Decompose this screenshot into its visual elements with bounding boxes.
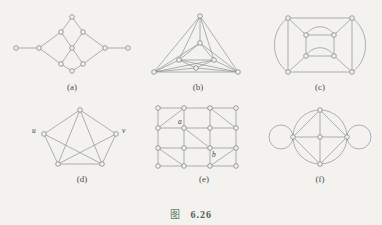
subfigure-c-graph [268, 8, 372, 80]
figure-page: (a) [0, 0, 382, 225]
subfigure-d: u v [28, 102, 136, 172]
subfigure-e-graph: a b [152, 102, 256, 172]
subfigure-b [148, 8, 248, 80]
figure-label-number: 6.26 [191, 209, 213, 220]
figure-label-cjk: 图 [170, 209, 187, 220]
subfigure-f-caption: (f) [300, 174, 340, 184]
subfigure-e-caption: (e) [184, 174, 224, 184]
subfigure-c-caption: (c) [300, 82, 340, 92]
subfigure-d-edges [44, 110, 116, 164]
vertex-label-v: v [122, 126, 126, 135]
figure-label: 图 6.26 [0, 206, 382, 221]
vertex-label-b: b [212, 150, 216, 159]
subfigure-f [268, 102, 372, 172]
subfigure-b-graph [148, 8, 248, 80]
subfigure-e: a b [152, 102, 256, 172]
subfigure-f-graph [268, 102, 372, 172]
subfigure-b-caption: (b) [178, 82, 218, 92]
subfigure-a-caption: (a) [52, 82, 92, 92]
subfigure-c-edges [288, 18, 352, 72]
vertex-label-a: a [178, 117, 182, 126]
subfigure-a [8, 8, 136, 80]
subfigure-e-vertices [156, 106, 239, 169]
subfigure-c-vertices [286, 16, 355, 75]
subfigure-a-graph [8, 8, 136, 80]
subfigure-c [268, 8, 372, 80]
subfigure-d-vertices [42, 108, 119, 167]
subfigure-d-graph: u v [28, 102, 136, 172]
subfigure-a-edges [16, 17, 128, 71]
subfigure-a-vertices [14, 15, 131, 74]
vertex-label-u: u [32, 126, 36, 135]
subfigure-e-edges [158, 108, 236, 166]
subfigure-b-edges [154, 16, 238, 72]
subfigure-d-caption: (d) [62, 174, 102, 184]
